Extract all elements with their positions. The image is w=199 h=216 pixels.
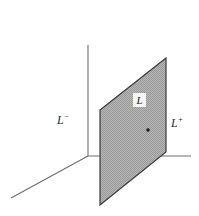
depth-axis-line (11, 156, 88, 198)
plane-label: L (133, 93, 146, 107)
negative-halfspace-letter: L (57, 113, 64, 127)
figure-canvas (0, 0, 199, 216)
positive-halfspace-label: L+ (171, 117, 183, 129)
negative-halfspace-sign: − (64, 112, 69, 121)
plane-polygon (100, 58, 166, 205)
sample-point-marker (146, 128, 149, 131)
positive-halfspace-sign: + (178, 115, 183, 124)
hyperplane-figure: L− L+ L (0, 0, 199, 216)
positive-halfspace-letter: L (171, 116, 178, 130)
negative-halfspace-label: L− (57, 114, 69, 126)
